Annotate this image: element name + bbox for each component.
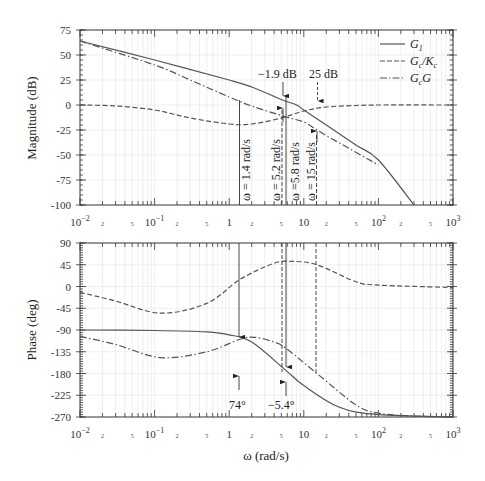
x-minor-tick-label: 5: [205, 433, 208, 439]
y-tick-label: 90: [60, 237, 72, 249]
phase-panel: 90450-45-90-135-180-225-270 10−22510−125…: [24, 237, 461, 463]
legend: G1 Gc/Kc GcG: [380, 37, 438, 87]
annotation-m54deg: −5.4°: [268, 398, 295, 412]
curve-gcg: [80, 336, 453, 417]
y-tick-label: 0: [66, 99, 72, 111]
y-tick-label: -90: [56, 324, 71, 336]
magnitude-y-tick-labels: 7550250-25-50-75-100: [51, 24, 72, 211]
x-tick-label: 10: [298, 216, 310, 228]
phase-y-tick-labels: 90450-45-90-135-180-225-270: [51, 237, 72, 423]
y-tick-label: -180: [51, 368, 72, 380]
x-tick-label: 102: [371, 214, 386, 228]
x-tick-label: 10−2: [70, 426, 90, 440]
y-tick-label: -25: [56, 124, 71, 136]
annotation-w1-4: ω = 1.4 rad/s: [239, 139, 253, 201]
x-minor-tick-label: 5: [429, 433, 432, 439]
legend-label-gckc: Gc/Kc: [410, 54, 438, 70]
x-minor-tick-label: 5: [280, 433, 283, 439]
y-tick-label: -75: [56, 174, 71, 186]
annotation-w15: ω = 15 rad/s: [304, 142, 318, 201]
x-tick-label: 103: [446, 214, 461, 228]
x-minor-tick-label: 2: [399, 221, 402, 227]
x-tick-label: 10−2: [70, 214, 90, 228]
x-minor-tick-label: 2: [250, 221, 253, 227]
y-tick-label: -100: [51, 199, 72, 211]
x-minor-tick-label: 2: [101, 221, 104, 227]
x-minor-tick-label: 2: [399, 433, 402, 439]
legend-label-g1: G1: [410, 37, 423, 53]
legend-label-gcg: GcG: [410, 71, 431, 87]
x-minor-tick-label: 2: [176, 433, 179, 439]
curve-gckc: [80, 261, 453, 313]
y-tick-label: -45: [56, 302, 71, 314]
x-tick-label: 1: [226, 216, 232, 228]
x-minor-tick-label: 5: [205, 221, 208, 227]
magnitude-ticks: [76, 30, 457, 205]
x-minor-tick-label: 5: [280, 221, 283, 227]
y-tick-label: 45: [60, 259, 72, 271]
magnitude-y-axis-title: Magnitude (dB): [24, 76, 39, 159]
x-minor-tick-label: 5: [131, 221, 134, 227]
x-minor-tick-label: 2: [325, 221, 328, 227]
magnitude-plot-frame: [80, 30, 453, 205]
x-minor-tick-label: 2: [101, 433, 104, 439]
x-minor-tick-label: 2: [176, 221, 179, 227]
curve-gckc: [80, 105, 453, 125]
y-tick-label: -225: [51, 389, 72, 401]
x-tick-label: 10−1: [145, 426, 165, 440]
y-tick-label: 50: [60, 49, 72, 61]
y-tick-label: 75: [60, 24, 72, 36]
x-minor-tick-label: 5: [429, 221, 432, 227]
y-tick-label: 25: [60, 74, 72, 86]
magnitude-curves: [80, 41, 453, 205]
phase-x-tick-labels: 10−22510−125125102510225103: [70, 426, 460, 440]
x-minor-tick-label: 5: [131, 433, 134, 439]
phase-frequency-markers: [239, 243, 316, 396]
x-minor-tick-label: 5: [354, 221, 357, 227]
x-tick-label: 102: [371, 426, 386, 440]
annotation-25db: 25 dB: [309, 67, 338, 81]
x-tick-label: 10−1: [145, 214, 165, 228]
x-axis-title: ω (rad/s): [243, 448, 289, 463]
magnitude-panel: 7550250-25-50-75-100 10−22510−1251251025…: [24, 24, 461, 228]
x-tick-label: 103: [446, 426, 461, 440]
annotation-w5-2: ω = 5.2 rad/s: [269, 139, 283, 201]
y-tick-label: -50: [56, 149, 71, 161]
x-tick-label: 1: [226, 428, 232, 440]
y-tick-label: -270: [51, 411, 72, 423]
phase-y-axis-title: Phase (deg): [24, 299, 39, 360]
magnitude-x-tick-labels: 10−22510−125125102510225103: [70, 214, 460, 228]
annotation-m19db: −1.9 dB: [258, 67, 297, 81]
x-minor-tick-label: 5: [354, 433, 357, 439]
magnitude-grid: [80, 30, 453, 205]
y-tick-label: -135: [51, 346, 72, 358]
annotation-74deg: 74°: [229, 398, 246, 412]
annotation-w5-8: ω =5.8 rad/s: [288, 142, 302, 201]
phase-curves: [80, 261, 453, 417]
bode-plot: 7550250-25-50-75-100 10−22510−1251251025…: [0, 0, 485, 481]
x-tick-label: 10: [298, 428, 310, 440]
y-tick-label: 0: [66, 281, 72, 293]
x-minor-tick-label: 2: [325, 433, 328, 439]
x-minor-tick-label: 2: [250, 433, 253, 439]
